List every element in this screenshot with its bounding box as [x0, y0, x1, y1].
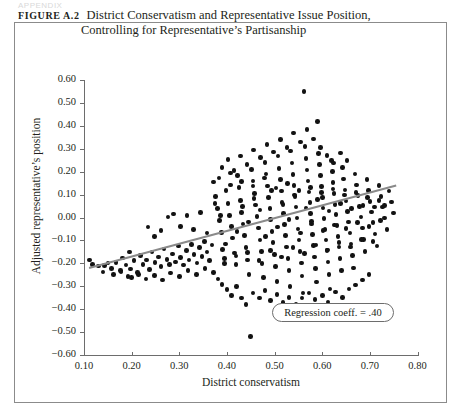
scatter-point [367, 224, 372, 229]
scatter-point [234, 284, 239, 289]
scatter-point [242, 233, 247, 238]
scatter-point [146, 225, 151, 230]
y-axis-tick-label: −0.40 [34, 302, 76, 313]
scatter-point [272, 252, 277, 257]
scatter-point [235, 173, 240, 178]
scatter-point [360, 226, 365, 231]
scatter-point [327, 272, 332, 277]
scatter-point [152, 234, 157, 239]
scatter-point [287, 295, 292, 300]
y-axis-tick-label: 0.20 [34, 165, 76, 176]
scatter-point [298, 231, 303, 236]
scatter-point [310, 232, 315, 237]
scatter-point [211, 270, 216, 275]
scatter-point [360, 278, 365, 283]
scatter-point [320, 293, 325, 298]
scatter-point [198, 210, 203, 215]
scatter-point [285, 145, 290, 150]
scatter-point [282, 222, 287, 227]
scatter-point [245, 258, 250, 263]
x-axis-tick [418, 352, 419, 356]
scatter-point [290, 161, 295, 166]
scatter-point [291, 131, 296, 136]
scatter-point [259, 249, 264, 254]
scatter-point [230, 236, 235, 241]
scatter-point [210, 243, 215, 248]
scatter-point [276, 154, 281, 159]
x-axis-tick-label: 0.20 [112, 360, 152, 371]
y-axis-tick [80, 103, 84, 104]
scatter-point [338, 151, 343, 156]
scatter-point [344, 226, 349, 231]
scatter-point [361, 203, 366, 208]
scatter-point [177, 274, 182, 279]
x-axis-tick-label: 0.60 [302, 360, 342, 371]
scatter-point [160, 278, 165, 283]
scatter-point [347, 287, 352, 292]
scatter-point [271, 150, 276, 155]
scatter-point [288, 149, 293, 154]
y-axis-tick [80, 195, 84, 196]
scatter-point [239, 296, 244, 301]
scatter-point [377, 198, 382, 203]
scatter-point [245, 162, 250, 167]
x-axis-tick [84, 352, 85, 356]
scatter-point [351, 266, 356, 271]
scatter-point [365, 177, 370, 182]
scatter-point [170, 252, 175, 257]
scatter-point [286, 256, 291, 261]
scatter-point [363, 249, 368, 254]
x-axis-tick [132, 352, 133, 356]
scatter-point [371, 220, 376, 225]
y-axis-tick [80, 126, 84, 127]
scatter-point [275, 225, 280, 230]
x-axis-tick [227, 352, 228, 356]
scatter-point [316, 151, 321, 156]
scatter-point [220, 282, 225, 287]
scatter-point [132, 258, 137, 263]
scatter-point [111, 272, 116, 277]
scatter-point [258, 238, 263, 243]
scatter-point [315, 119, 320, 124]
scatter-point [355, 220, 360, 225]
scatter-point [319, 184, 324, 189]
x-axis-tick-label: 0.80 [398, 360, 438, 371]
scatter-point [191, 227, 196, 232]
scatter-point [304, 156, 309, 161]
scatter-point [141, 262, 146, 267]
scatter-point [391, 211, 396, 216]
scatter-point [291, 172, 296, 177]
scatter-point [300, 296, 305, 301]
scatter-point [173, 260, 178, 265]
scatter-point [385, 227, 390, 232]
scatter-point [372, 205, 377, 210]
scatter-point [278, 177, 283, 182]
scatter-point [274, 186, 279, 191]
scatter-point [328, 287, 333, 292]
scatter-point [187, 258, 192, 263]
scatter-point [305, 127, 310, 132]
scatter-point [298, 140, 303, 145]
y-axis-tick [80, 218, 84, 219]
y-axis-tick [80, 286, 84, 287]
scatter-point [313, 266, 318, 271]
scatter-point [279, 189, 284, 194]
scatter-point [168, 271, 173, 276]
scatter-point [302, 89, 307, 94]
scatter-point [314, 243, 319, 248]
scatter-point [257, 296, 262, 301]
scatter-point [266, 195, 271, 200]
scatter-point [200, 254, 205, 259]
scatter-point [218, 213, 223, 218]
scatter-point [239, 179, 244, 184]
scatter-point [238, 154, 243, 159]
scatter-point [294, 205, 299, 210]
scatter-point [263, 160, 268, 165]
scatter-point [318, 145, 323, 150]
scatter-point [308, 211, 313, 216]
scatter-point [265, 142, 270, 147]
scatter-plot: Adjusted representative’s position Distr… [0, 0, 461, 419]
scatter-point [238, 198, 243, 203]
x-axis-tick [370, 352, 371, 356]
scatter-point [285, 181, 290, 186]
